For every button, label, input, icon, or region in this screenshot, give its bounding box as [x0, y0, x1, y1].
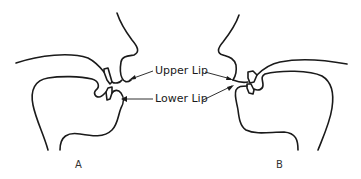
- figure-b-lower-lip-chin: [235, 86, 298, 150]
- arrow-head-upper-lip-b: [226, 76, 233, 80]
- figure-a-tongue-outline: [32, 77, 106, 150]
- arrow-head-lower-lip-b: [227, 85, 234, 91]
- figure-a-palate-upper: [16, 55, 104, 72]
- figure-b-tongue-outline: [254, 71, 333, 150]
- figure-b-caption: B: [276, 160, 283, 170]
- figure-a-caption: A: [75, 160, 82, 170]
- arrow-head-upper-lip-a: [129, 75, 136, 80]
- figure-b-lips-closed: [233, 80, 248, 82]
- figure-a-upper-lip-inner: [112, 80, 122, 83]
- figure-b-lower-tooth: [247, 84, 254, 94]
- figure-b-upper-tooth: [248, 71, 257, 83]
- upper-lip-label: Upper Lip: [155, 65, 208, 76]
- diagram-canvas: [0, 0, 361, 179]
- figure-b-head-profile: [219, 15, 348, 150]
- figure-a-lower-tooth: [106, 87, 112, 100]
- figure-a-upper-tooth: [104, 68, 112, 84]
- figure-a-lower-lip-chin: [60, 90, 123, 150]
- figure-a-face-profile: [117, 13, 138, 82]
- lower-lip-label: Lower Lip: [155, 93, 208, 104]
- figure-b-face-profile: [219, 15, 240, 80]
- figure-a-head-profile: [16, 13, 138, 150]
